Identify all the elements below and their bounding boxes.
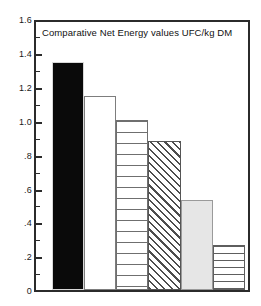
bar-1 (52, 62, 84, 290)
bar-3 (116, 120, 148, 290)
bar-chart: 1.6 1.4 1.2 1.0 .8 .6 .4 .2 0 Comparativ… (0, 0, 261, 306)
bar-2 (84, 96, 116, 290)
bar-4 (148, 141, 181, 290)
bars-layer (0, 0, 261, 306)
x-axis-baseline (34, 290, 250, 292)
bar-6 (213, 245, 245, 290)
bar-5 (181, 200, 213, 290)
